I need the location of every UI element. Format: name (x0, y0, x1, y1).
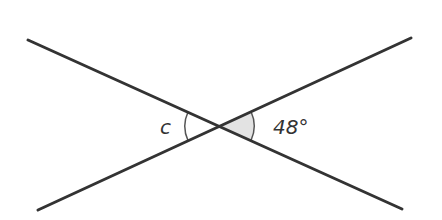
angle-c-arc (185, 112, 188, 141)
line-1 (28, 40, 402, 209)
angle-48-label: 48° (273, 115, 308, 139)
intersecting-lines-diagram: c 48° (0, 0, 442, 220)
angle-c-label: c (160, 115, 171, 139)
line-2 (38, 38, 411, 210)
angle-48-shaded-sector (219, 112, 254, 141)
